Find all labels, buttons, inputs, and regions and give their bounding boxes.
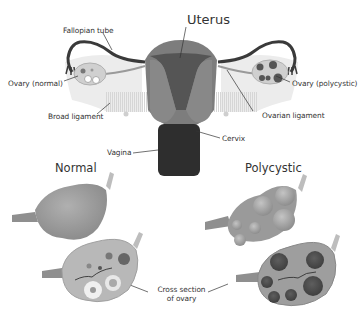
vagina [158, 124, 200, 176]
pcos-diagram: Uterus Fallopian tube Ovary (normal) Ova… [0, 0, 363, 315]
label-cross-section-line1: Cross section [154, 286, 209, 293]
normal-ovary-external [12, 172, 114, 240]
label-broad-ligament: Broad ligament [48, 113, 103, 120]
label-fallopian-tube: Fallopian tube [63, 27, 113, 34]
polycystic-ovary-external [205, 174, 307, 246]
ovary-polycystic-small [252, 60, 288, 84]
ovary-normal-small [74, 63, 106, 85]
label-ovary-polycystic: Ovary (polycystic) [292, 80, 357, 87]
label-ovarian-ligament: Ovarian ligament [262, 112, 324, 119]
label-cervix: Cervix [222, 135, 245, 142]
label-cross-section-line2: of ovary [154, 295, 209, 302]
heading-normal: Normal [55, 163, 97, 175]
label-ovary-normal: Ovary (normal) [8, 80, 63, 87]
heading-polycystic: Polycystic [245, 163, 302, 175]
label-vagina: Vagina [107, 149, 131, 156]
normal-ovary-cross-section [42, 232, 143, 302]
polycystic-ovary-cross-section [236, 234, 340, 306]
reproductive-system-illustration [0, 0, 363, 315]
label-uterus: Uterus [187, 13, 230, 26]
